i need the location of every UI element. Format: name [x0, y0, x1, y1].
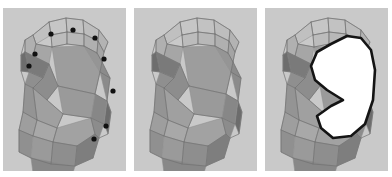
- vertex-marker-7[interactable]: [110, 88, 115, 93]
- figure-container: [0, 0, 392, 177]
- mesh-face-crown-top-mid: [197, 18, 215, 34]
- panel-gap-2: [257, 0, 265, 163]
- panel-2-mesh-svg: [134, 8, 257, 171]
- vertex-marker-3[interactable]: [92, 35, 97, 40]
- vertex-marker-1[interactable]: [48, 31, 53, 36]
- vertex-marker-5[interactable]: [26, 63, 31, 68]
- panel-1-mesh-svg: [3, 8, 126, 171]
- panel-2-head-plain: [134, 8, 257, 171]
- vertex-marker-6[interactable]: [101, 56, 106, 61]
- panel-3-head-with-cutout: [265, 8, 388, 171]
- panel-gap-1: [126, 0, 134, 163]
- panel-3-mesh-svg: [265, 8, 388, 171]
- vertex-marker-2[interactable]: [70, 27, 75, 32]
- vertex-marker-4[interactable]: [32, 51, 37, 56]
- mesh-face-crown-top-mid: [328, 18, 346, 34]
- vertex-marker-8[interactable]: [103, 123, 108, 128]
- vertex-marker-9[interactable]: [91, 136, 96, 141]
- right-margin: [388, 0, 392, 163]
- panel-1-head-with-vertices: [3, 8, 126, 171]
